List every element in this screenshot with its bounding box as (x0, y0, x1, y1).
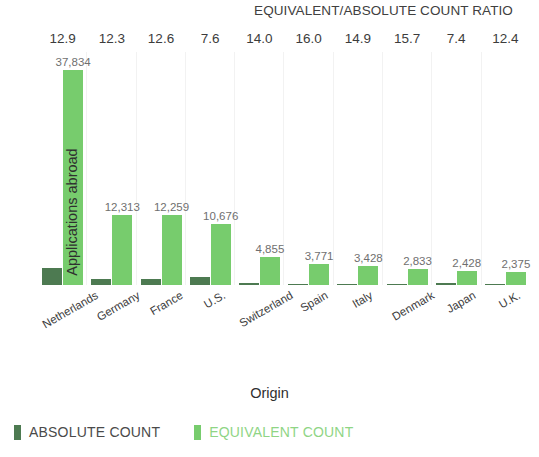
y-axis-title: Applications abroad (64, 112, 80, 312)
bar-group: 3,771 (284, 52, 333, 285)
x-tick-label: U.S. (202, 289, 227, 311)
x-tick-cell: Denmark (382, 285, 431, 347)
bar-group: 12,259 (136, 52, 185, 285)
ratio-value: 12.6 (136, 29, 185, 49)
legend-label-equivalent: EQUIVALENT COUNT (209, 424, 353, 440)
x-tick-cell: Italy (333, 285, 382, 347)
x-tick-cell: U.S. (186, 285, 235, 347)
x-tick-cell: U.K. (481, 285, 530, 347)
x-axis-tick-labels: NetherlandsGermanyFranceU.S.SwitzerlandS… (38, 285, 530, 347)
bar-value-label: 2,428 (452, 257, 481, 269)
bar-equivalent-count[interactable]: 2,375 (506, 272, 526, 285)
x-tick-label: Spain (298, 289, 329, 314)
legend: ABSOLUTE COUNT EQUIVALENT COUNT (14, 424, 353, 440)
ratio-header-row: 12.912.312.67.614.016.014.915.77.412.4 (38, 29, 530, 49)
bar-value-label: 3,428 (354, 252, 383, 264)
bar-group: 2,833 (382, 52, 431, 285)
bar-equivalent-count[interactable]: 12,313 (112, 215, 132, 285)
bar-value-label: 12,313 (105, 201, 140, 213)
ratio-value: 16.0 (284, 29, 333, 49)
bar-absolute-count[interactable] (42, 268, 62, 285)
bar-equivalent-count[interactable]: 12,259 (162, 215, 182, 285)
bar-equivalent-count[interactable]: 2,833 (408, 269, 428, 285)
x-tick-label: Japan (445, 289, 478, 315)
ratio-value: 7.6 (186, 29, 235, 49)
x-tick-label: France (148, 289, 185, 317)
x-tick-cell: France (136, 285, 185, 347)
bar-group: 3,428 (333, 52, 382, 285)
ratio-value: 12.4 (481, 29, 530, 49)
bar-groups: 37,83412,31312,25910,6764,8553,7713,4282… (38, 52, 530, 285)
x-axis-title: Origin (0, 385, 539, 401)
chart-container: EQUIVALENT/ABSOLUTE COUNT RATIO 12.912.3… (0, 0, 539, 457)
ratio-value: 12.9 (38, 29, 87, 49)
x-tick-cell: Switzerland (235, 285, 284, 347)
legend-item-equivalent-count[interactable]: EQUIVALENT COUNT (194, 424, 353, 440)
x-tick-cell: Germany (87, 285, 136, 347)
bar-value-label: 12,259 (154, 201, 189, 213)
bar-equivalent-count[interactable]: 4,855 (260, 257, 280, 285)
bar-equivalent-count[interactable]: 3,771 (309, 264, 329, 285)
bar-absolute-count[interactable] (190, 277, 210, 285)
bar-value-label: 4,855 (256, 243, 285, 255)
x-tick-label: Denmark (390, 289, 436, 323)
x-tick-label: Italy (350, 289, 374, 310)
ratio-value: 7.4 (432, 29, 481, 49)
bar-value-label: 3,771 (305, 250, 334, 262)
bar-value-label: 37,834 (56, 56, 91, 68)
legend-item-absolute-count[interactable]: ABSOLUTE COUNT (14, 424, 160, 440)
bar-group: 2,428 (432, 52, 481, 285)
bar-group: 10,676 (186, 52, 235, 285)
bar-equivalent-count[interactable]: 10,676 (211, 224, 231, 285)
chart-title: EQUIVALENT/ABSOLUTE COUNT RATIO (228, 3, 539, 18)
plot-area: 37,83412,31312,25910,6764,8553,7713,4282… (38, 52, 530, 285)
legend-label-absolute: ABSOLUTE COUNT (29, 424, 160, 440)
bar-equivalent-count[interactable]: 2,428 (457, 271, 477, 285)
legend-swatch-equivalent-icon (194, 425, 201, 440)
x-tick-cell: Netherlands (38, 285, 87, 347)
bar-group: 4,855 (235, 52, 284, 285)
bar-value-label: 10,676 (203, 210, 238, 222)
bar-value-label: 2,375 (502, 258, 531, 270)
x-tick-cell: Japan (432, 285, 481, 347)
ratio-value: 14.0 (235, 29, 284, 49)
ratio-value: 15.7 (382, 29, 431, 49)
bar-group: 2,375 (481, 52, 530, 285)
x-tick-cell: Spain (284, 285, 333, 347)
x-tick-label: U.K. (497, 289, 522, 311)
legend-swatch-absolute-icon (14, 425, 21, 440)
ratio-value: 14.9 (333, 29, 382, 49)
ratio-value: 12.3 (87, 29, 136, 49)
bar-equivalent-count[interactable]: 3,428 (358, 266, 378, 285)
bar-group: 12,313 (87, 52, 136, 285)
bar-value-label: 2,833 (403, 255, 432, 267)
x-tick-label: Germany (94, 289, 141, 323)
